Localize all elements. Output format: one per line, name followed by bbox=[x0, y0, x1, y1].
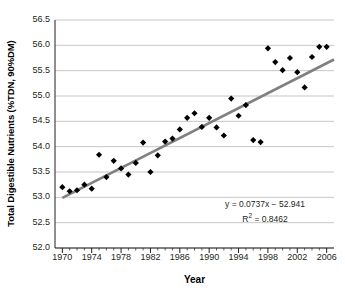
data-point-marker bbox=[59, 184, 65, 190]
chart-container: Total Digestible Nutrients (%TDN, 90%DM)… bbox=[0, 0, 345, 293]
data-point-marker bbox=[184, 115, 190, 121]
plot-area bbox=[0, 0, 345, 293]
data-point-marker bbox=[221, 132, 227, 138]
data-point-marker bbox=[316, 44, 322, 50]
data-point-marker bbox=[257, 139, 263, 145]
trendline bbox=[62, 60, 334, 198]
data-point-marker bbox=[206, 115, 212, 121]
data-point-marker bbox=[111, 158, 117, 164]
data-point-marker bbox=[272, 59, 278, 65]
data-point-marker bbox=[294, 69, 300, 75]
data-point-marker bbox=[191, 110, 197, 116]
data-point-marker bbox=[324, 44, 330, 50]
data-point-marker bbox=[250, 137, 256, 143]
trendline-equation: y = 0.0737x − 52.941 bbox=[204, 198, 326, 210]
r2-value: = 0.8462 bbox=[252, 214, 288, 224]
data-point-marker bbox=[265, 45, 271, 51]
data-point-marker bbox=[280, 67, 286, 73]
data-point-marker bbox=[287, 55, 293, 61]
trendline-r2: R2 = 0.8462 bbox=[204, 210, 326, 225]
data-point-marker bbox=[89, 186, 95, 192]
data-point-marker bbox=[213, 124, 219, 130]
data-point-marker bbox=[147, 169, 153, 175]
data-point-marker bbox=[140, 140, 146, 146]
data-point-marker bbox=[155, 152, 161, 158]
data-point-marker bbox=[309, 54, 315, 60]
data-point-marker bbox=[235, 113, 241, 119]
data-point-marker bbox=[177, 126, 183, 132]
data-point-marker bbox=[302, 84, 308, 90]
trendline-equation-box: y = 0.0737x − 52.941 R2 = 0.8462 bbox=[204, 198, 326, 225]
data-point-marker bbox=[96, 152, 102, 158]
